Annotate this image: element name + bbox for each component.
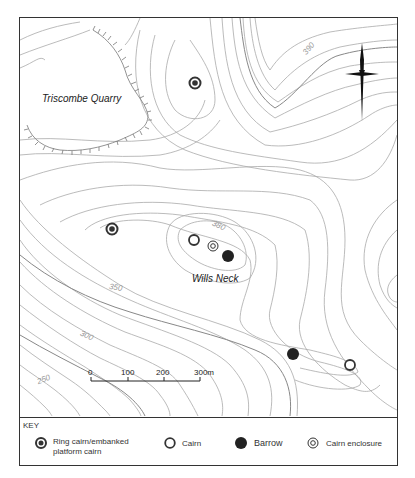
scale-label-0: 0	[88, 368, 92, 377]
quarry-edge	[24, 26, 152, 155]
key-item-ring-cairn: Ring cairn/embanked platform cairn	[53, 437, 129, 457]
key-item-cairn-enclosure: Cairn enclosure	[326, 439, 382, 448]
cairn-marker	[345, 360, 355, 370]
cairn-enclosure-marker	[208, 241, 218, 251]
key-label: platform cairn	[53, 447, 129, 457]
ring-cairn-marker	[190, 78, 201, 89]
scale-label-200: 200	[156, 368, 169, 377]
ring-cairn-marker	[107, 224, 118, 235]
scale-label-100: 100	[121, 368, 134, 377]
contour-lines	[20, 18, 397, 416]
key-title: KEY	[23, 421, 39, 430]
contour-map	[0, 0, 415, 478]
key-item-barrow: Barrow	[254, 438, 283, 448]
barrow-marker	[287, 348, 299, 360]
key-label: Cairn	[182, 439, 201, 448]
map-key: KEY Ring cairn/embanked platform cairn C…	[19, 417, 398, 466]
north-arrow-icon	[345, 43, 379, 121]
cairn-marker	[189, 235, 199, 245]
site-markers	[107, 78, 356, 371]
scale-label-300m: 300m	[194, 368, 214, 377]
key-item-cairn: Cairn	[182, 439, 201, 448]
key-label: Cairn enclosure	[326, 439, 382, 448]
barrow-marker	[222, 250, 234, 262]
key-label: Ring cairn/embanked	[53, 437, 129, 447]
index-contours	[20, 18, 397, 416]
quarry-label: Triscombe Quarry	[42, 93, 121, 104]
scale-bar	[91, 377, 200, 381]
key-label: Barrow	[254, 438, 283, 448]
summit-label: Wills Neck	[192, 273, 239, 284]
